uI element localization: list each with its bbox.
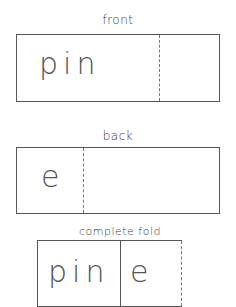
back-label: back	[88, 129, 148, 143]
fold-line	[83, 148, 84, 213]
back-strip: e	[16, 147, 220, 214]
complete-fold-strip: pin e	[37, 240, 182, 307]
complete-fold-word-left: pin	[48, 257, 109, 287]
front-strip: pin	[16, 34, 220, 102]
fold-line	[159, 35, 160, 101]
fold-line	[181, 241, 182, 306]
back-word: e	[41, 162, 64, 192]
fold-edge	[120, 241, 121, 306]
front-word: pin	[39, 49, 100, 79]
complete-fold-word-right: e	[130, 257, 153, 287]
front-label: front	[88, 13, 148, 27]
complete-fold-label: complete fold	[60, 225, 180, 238]
